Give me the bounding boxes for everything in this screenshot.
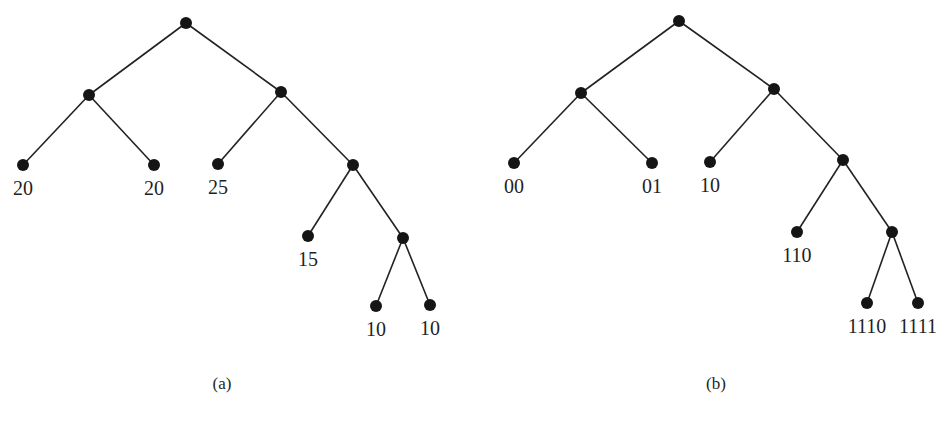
tree-edge <box>581 93 652 163</box>
leaf-node <box>912 297 924 309</box>
tree-edge <box>774 89 843 160</box>
leaf-node <box>17 159 29 171</box>
leaf-label: 1110 <box>848 315 887 337</box>
tree-edge <box>186 23 281 92</box>
leaf-node <box>704 156 716 168</box>
tree-b-leaf-labels: 00011011011101111 <box>504 174 937 337</box>
leaf-label: 10 <box>366 318 386 340</box>
leaf-node <box>302 230 314 242</box>
tree-diagram: 202025151010 (a) 00011011011101111 (b) <box>0 0 948 424</box>
internal-node <box>768 83 780 95</box>
leaf-node <box>646 157 658 169</box>
leaf-node <box>370 300 382 312</box>
tree-b-nodes <box>508 15 924 309</box>
internal-node <box>886 226 898 238</box>
tree-edge <box>581 21 679 93</box>
tree-a-nodes <box>17 17 436 312</box>
tree-edge <box>843 160 892 232</box>
tree-edge <box>218 92 281 164</box>
leaf-node <box>424 299 436 311</box>
tree-edge <box>867 232 892 303</box>
leaf-label: 10 <box>700 174 720 196</box>
tree-edge <box>89 95 154 165</box>
internal-node <box>837 154 849 166</box>
leaf-node <box>148 159 160 171</box>
leaf-label: 1111 <box>899 315 937 337</box>
leaf-node <box>508 157 520 169</box>
leaf-node <box>861 297 873 309</box>
leaf-label: 20 <box>144 177 164 199</box>
internal-node <box>397 232 409 244</box>
leaf-label: 110 <box>782 244 811 266</box>
tree-edge <box>403 238 430 305</box>
tree-edge <box>308 165 353 236</box>
tree-edge <box>353 165 403 238</box>
leaf-label: 25 <box>208 176 228 198</box>
panel-label-b: (b) <box>706 374 726 393</box>
internal-node <box>347 159 359 171</box>
leaf-label: 15 <box>298 248 318 270</box>
tree-edge <box>892 232 918 303</box>
leaf-node <box>791 226 803 238</box>
tree-edge <box>89 23 186 95</box>
tree-edge <box>797 160 843 232</box>
internal-node <box>180 17 192 29</box>
tree-edge <box>710 89 774 162</box>
leaf-label: 10 <box>420 317 440 339</box>
leaf-label: 00 <box>504 175 524 197</box>
leaf-label: 20 <box>13 177 33 199</box>
tree-a-leaf-labels: 202025151010 <box>13 176 440 340</box>
tree-a-edges <box>23 23 430 306</box>
diagram-canvas: 202025151010 (a) 00011011011101111 (b) <box>0 0 948 424</box>
tree-edge <box>679 21 774 89</box>
panel-label-a: (a) <box>213 374 232 393</box>
tree-edge <box>23 95 89 165</box>
tree-edge <box>514 93 581 163</box>
internal-node <box>575 87 587 99</box>
internal-node <box>275 86 287 98</box>
leaf-node <box>212 158 224 170</box>
tree-edge <box>376 238 403 306</box>
internal-node <box>673 15 685 27</box>
tree-edge <box>281 92 353 165</box>
internal-node <box>83 89 95 101</box>
tree-panel-a: 202025151010 (a) <box>13 17 440 393</box>
leaf-label: 01 <box>642 175 662 197</box>
tree-panel-b: 00011011011101111 (b) <box>504 15 937 393</box>
